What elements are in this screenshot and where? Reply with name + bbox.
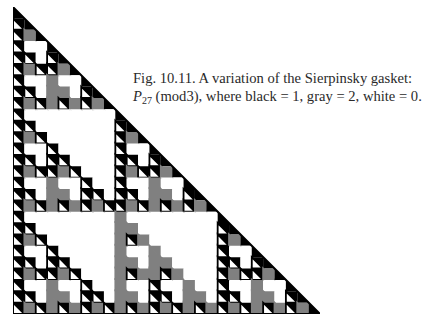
caption-subscript: 27 <box>142 95 152 106</box>
caption-text-2: (mod3), where black = 1, gray = 2, white… <box>156 88 422 104</box>
caption-label: Fig. 10.11. <box>133 70 196 86</box>
caption-line-1: Fig. 10.11. A variation of the Sierpinsk… <box>133 69 430 87</box>
figure: Fig. 10.11. A variation of the Sierpinsk… <box>0 0 430 319</box>
caption-symbol: P27 <box>133 88 152 104</box>
caption-line-2: P27 (mod3), where black = 1, gray = 2, w… <box>133 87 430 105</box>
figure-caption: Fig. 10.11. A variation of the Sierpinsk… <box>133 69 430 105</box>
caption-text-1: A variation of the Sierpinsky gasket: <box>199 70 413 86</box>
sierpinsky-gasket-image <box>13 7 320 314</box>
